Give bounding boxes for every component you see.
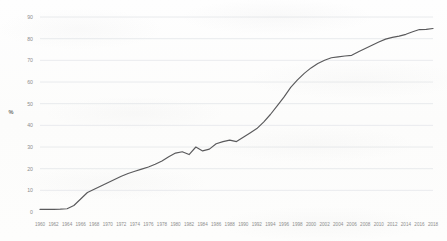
x-axis-tick-labels: 1960196219641966196819701972197419761978… bbox=[35, 222, 439, 227]
x-tick-label: 2006 bbox=[347, 222, 358, 227]
x-tick-label: 1986 bbox=[211, 222, 222, 227]
y-axis-title: % bbox=[9, 109, 14, 115]
x-tick-label: 2018 bbox=[428, 222, 439, 227]
x-tick-label: 1960 bbox=[35, 222, 46, 227]
x-tick-label: 1976 bbox=[143, 222, 154, 227]
x-tick-label: 1994 bbox=[265, 222, 276, 227]
x-tick-label: 1990 bbox=[238, 222, 249, 227]
y-tick-label: 80 bbox=[27, 36, 33, 42]
x-tick-label: 2014 bbox=[401, 222, 412, 227]
y-tick-label: 30 bbox=[27, 144, 33, 150]
gridlines-group bbox=[40, 17, 433, 190]
x-tick-label: 1984 bbox=[198, 222, 209, 227]
x-tick-label: 1996 bbox=[279, 222, 290, 227]
x-tick-label: 1974 bbox=[130, 222, 141, 227]
y-tick-label: 20 bbox=[27, 166, 33, 172]
y-tick-label: 0 bbox=[30, 209, 33, 215]
x-tick-label: 1982 bbox=[184, 222, 195, 227]
x-tick-label: 1978 bbox=[157, 222, 168, 227]
x-tick-label: 1998 bbox=[292, 222, 303, 227]
y-tick-label: 70 bbox=[27, 57, 33, 63]
chart-page: 0102030405060708090 19601962196419661968… bbox=[0, 0, 447, 241]
x-tick-label: 1988 bbox=[225, 222, 236, 227]
x-tick-label: 1964 bbox=[62, 222, 73, 227]
x-tick-label: 1972 bbox=[116, 222, 127, 227]
x-tick-label: 2004 bbox=[333, 222, 344, 227]
x-tick-label: 2000 bbox=[306, 222, 317, 227]
x-tick-label: 1980 bbox=[170, 222, 181, 227]
y-tick-label: 90 bbox=[27, 14, 33, 20]
x-tick-label: 2008 bbox=[360, 222, 371, 227]
x-tick-label: 1970 bbox=[103, 222, 114, 227]
x-tick-label: 2016 bbox=[414, 222, 425, 227]
x-tick-label: 1992 bbox=[252, 222, 263, 227]
x-tick-label: 1962 bbox=[48, 222, 59, 227]
y-axis-tick-labels: 0102030405060708090 bbox=[27, 14, 33, 215]
line-chart: 0102030405060708090 19601962196419661968… bbox=[0, 0, 447, 241]
x-tick-label: 2002 bbox=[319, 222, 330, 227]
x-tick-label: 2010 bbox=[374, 222, 385, 227]
y-tick-label: 50 bbox=[27, 101, 33, 107]
x-tick-label: 1966 bbox=[76, 222, 87, 227]
y-tick-label: 40 bbox=[27, 122, 33, 128]
data-series-line bbox=[40, 28, 433, 209]
y-tick-label: 10 bbox=[27, 187, 33, 193]
x-tick-label: 2012 bbox=[387, 222, 398, 227]
y-tick-label: 60 bbox=[27, 79, 33, 85]
x-tick-label: 1968 bbox=[89, 222, 100, 227]
